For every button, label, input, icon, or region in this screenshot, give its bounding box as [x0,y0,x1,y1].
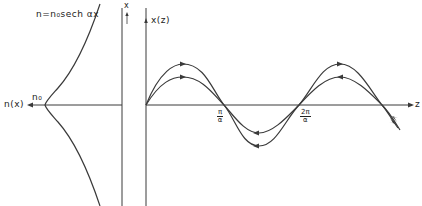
tick-2-denominator: α [300,117,311,124]
n0-label: n₀ [32,93,42,102]
outer-ray-arrow-2-icon [253,144,259,149]
xz-arrow-icon [144,18,148,23]
inner-ray-arrow-3-icon [337,75,343,80]
inner-ray-arrow-1-icon [180,75,186,80]
tick-2pi-over-alpha: 2π α [300,109,311,124]
tick-pi-over-alpha: π α [217,109,223,124]
n-axis-label: n(x) [4,100,24,109]
figure-canvas [0,0,422,206]
z-axis-arrow-icon [408,103,414,108]
tick-1-denominator: α [217,117,223,124]
x-arrow-left-icon [125,12,128,16]
xz-axis-label: x(z) [151,16,170,25]
z-axis-label: z [415,100,420,109]
outer-ray-arrow-3-icon [337,62,343,67]
n-axis-arrow-icon [27,103,33,108]
x-axis-left-label: x [124,2,129,10]
outer-ray-arrow-1-icon [180,62,186,67]
inner-ray-arrow-2-icon [253,131,259,136]
equation-label: n=n₀sech αx [36,10,99,19]
